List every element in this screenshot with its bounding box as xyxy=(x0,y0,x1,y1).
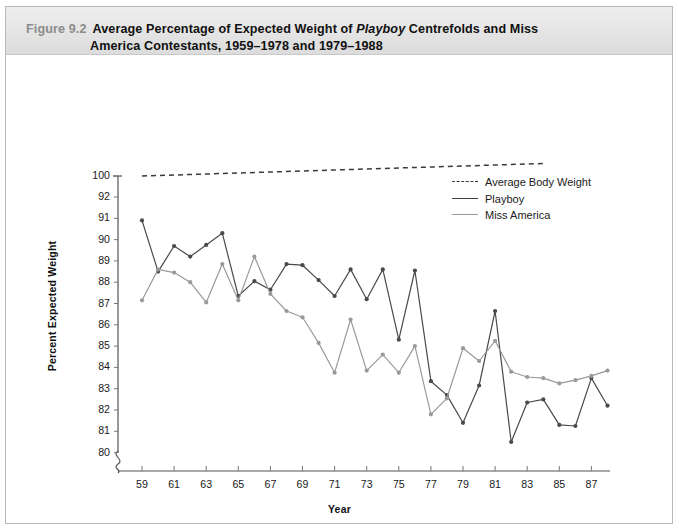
data-point-miss-america xyxy=(172,271,176,275)
data-point-playboy xyxy=(172,244,176,248)
x-axis-title: Year xyxy=(0,503,679,515)
y-tick-label: 80 xyxy=(76,446,110,458)
y-tick-label: 88 xyxy=(76,275,110,287)
data-point-playboy xyxy=(349,267,353,271)
data-point-miss-america xyxy=(445,396,449,400)
data-point-miss-america xyxy=(573,378,577,382)
x-tick-label: 61 xyxy=(159,478,189,490)
y-tick-label: 85 xyxy=(76,339,110,351)
data-point-miss-america xyxy=(140,298,144,302)
data-point-playboy xyxy=(541,397,545,401)
data-point-playboy xyxy=(365,297,369,301)
chart-legend: Average Body Weight Playboy Miss America xyxy=(452,174,591,224)
data-point-miss-america xyxy=(525,375,529,379)
data-point-miss-america xyxy=(236,298,240,302)
x-tick-label: 59 xyxy=(127,478,157,490)
data-point-miss-america xyxy=(429,412,433,416)
legend-label-miss-america: Miss America xyxy=(485,207,550,224)
y-tick-label: 84 xyxy=(76,360,110,372)
series-line-miss-america xyxy=(142,257,608,415)
data-point-playboy xyxy=(493,309,497,313)
y-axis-title: Percent Expected Weight xyxy=(46,221,58,391)
x-tick-label: 69 xyxy=(288,478,318,490)
data-point-playboy xyxy=(605,404,609,408)
x-tick-label: 79 xyxy=(448,478,478,490)
data-point-miss-america xyxy=(381,353,385,357)
x-tick-label: 81 xyxy=(480,478,510,490)
x-tick-label: 73 xyxy=(352,478,382,490)
y-tick-label: 91 xyxy=(76,211,110,223)
data-point-miss-america xyxy=(188,280,192,284)
data-point-miss-america xyxy=(252,255,256,259)
x-tick-label: 87 xyxy=(576,478,606,490)
legend-item-miss-america: Miss America xyxy=(452,207,591,224)
data-point-playboy xyxy=(525,400,529,404)
x-tick-label: 71 xyxy=(320,478,350,490)
data-point-playboy xyxy=(381,267,385,271)
data-point-playboy xyxy=(220,231,224,235)
data-point-miss-america xyxy=(284,309,288,313)
legend-label-playboy: Playboy xyxy=(485,191,524,208)
figure-page: Figure 9.2Average Percentage of Expected… xyxy=(0,0,679,531)
data-point-playboy xyxy=(557,423,561,427)
data-point-playboy xyxy=(397,338,401,342)
data-point-miss-america xyxy=(220,262,224,266)
data-point-playboy xyxy=(317,278,321,282)
x-tick-label: 77 xyxy=(416,478,446,490)
data-point-miss-america xyxy=(557,381,561,385)
legend-swatch-solid-gray-icon xyxy=(452,210,478,220)
legend-item-playboy: Playboy xyxy=(452,191,591,208)
legend-swatch-dashed-icon xyxy=(452,177,478,187)
data-point-playboy xyxy=(509,440,513,444)
data-point-miss-america xyxy=(317,341,321,345)
x-tick-label: 75 xyxy=(384,478,414,490)
y-tick-label: 81 xyxy=(76,424,110,436)
data-point-playboy xyxy=(333,294,337,298)
x-tick-label: 67 xyxy=(255,478,285,490)
data-point-miss-america xyxy=(589,374,593,378)
data-point-miss-america xyxy=(397,371,401,375)
x-tick-label: 83 xyxy=(512,478,542,490)
y-tick-label: 82 xyxy=(76,403,110,415)
legend-label-average-body-weight: Average Body Weight xyxy=(485,174,591,191)
data-point-playboy xyxy=(429,379,433,383)
data-point-miss-america xyxy=(509,370,513,374)
legend-item-average-body-weight: Average Body Weight xyxy=(452,174,591,191)
series-line-playboy xyxy=(142,220,608,442)
data-point-playboy xyxy=(413,268,417,272)
data-point-playboy xyxy=(204,243,208,247)
data-point-miss-america xyxy=(268,292,272,296)
data-point-miss-america xyxy=(493,339,497,343)
y-tick-label: 90 xyxy=(76,233,110,245)
legend-swatch-solid-dark-icon xyxy=(452,194,478,204)
data-point-miss-america xyxy=(156,267,160,271)
y-tick-label: 100 xyxy=(76,169,110,181)
y-tick-label: 92 xyxy=(76,190,110,202)
x-tick-label: 63 xyxy=(191,478,221,490)
data-point-playboy xyxy=(573,424,577,428)
data-point-miss-america xyxy=(349,317,353,321)
y-axis-break-icon xyxy=(116,451,120,473)
y-tick-label: 89 xyxy=(76,254,110,266)
data-point-miss-america xyxy=(461,346,465,350)
x-tick-label: 65 xyxy=(223,478,253,490)
chart-plot-area: Percent Expected Weight Year 10092919089… xyxy=(0,0,679,531)
data-point-playboy xyxy=(252,279,256,283)
data-point-playboy xyxy=(300,263,304,267)
data-point-miss-america xyxy=(365,369,369,373)
data-point-playboy xyxy=(140,218,144,222)
y-tick-label: 83 xyxy=(76,382,110,394)
data-point-miss-america xyxy=(333,371,337,375)
data-point-playboy xyxy=(284,262,288,266)
data-point-miss-america xyxy=(300,315,304,319)
data-point-playboy xyxy=(188,255,192,259)
data-point-miss-america xyxy=(204,300,208,304)
data-point-playboy xyxy=(461,421,465,425)
data-point-miss-america xyxy=(413,344,417,348)
x-tick-label: 85 xyxy=(544,478,574,490)
y-tick-label: 86 xyxy=(76,318,110,330)
y-tick-label: 87 xyxy=(76,297,110,309)
data-point-playboy xyxy=(477,383,481,387)
data-point-miss-america xyxy=(477,359,481,363)
data-point-miss-america xyxy=(605,369,609,373)
